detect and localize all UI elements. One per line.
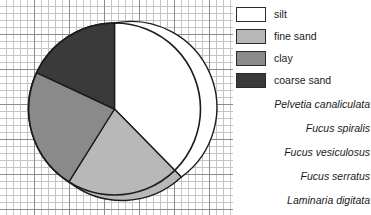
legend-item-silt[interactable]: silt: [236, 4, 371, 25]
legend-label-fine-sand: fine sand: [274, 31, 317, 42]
list-item: Pelvetia canaliculata: [236, 92, 370, 116]
legend-item-coarse-sand[interactable]: coarse sand: [236, 70, 371, 91]
legend-label-clay: clay: [274, 53, 293, 64]
legend-swatch-coarse-sand: [236, 73, 266, 88]
list-item: Fucus serratus: [236, 164, 370, 188]
list-item: Fucus vesiculosus: [236, 140, 370, 164]
legend-item-clay[interactable]: clay: [236, 48, 371, 69]
legend-swatch-silt: [236, 7, 266, 22]
list-item: Laminaria digitata: [236, 188, 370, 212]
list-item: Fucus spiralis: [236, 116, 370, 140]
pie-chart-svg: [0, 0, 233, 215]
legend: silt fine sand clay coarse sand: [236, 4, 371, 92]
species-list: Pelvetia canaliculata Fucus spiralis Fuc…: [236, 92, 370, 212]
legend-label-coarse-sand: coarse sand: [274, 75, 331, 86]
legend-swatch-clay: [236, 51, 266, 66]
legend-swatch-fine-sand: [236, 29, 266, 44]
pie-chart: [0, 0, 233, 215]
pie-chart-figure: silt fine sand clay coarse sand Pelvetia…: [0, 0, 371, 215]
legend-item-fine-sand[interactable]: fine sand: [236, 26, 371, 47]
legend-label-silt: silt: [274, 9, 287, 20]
